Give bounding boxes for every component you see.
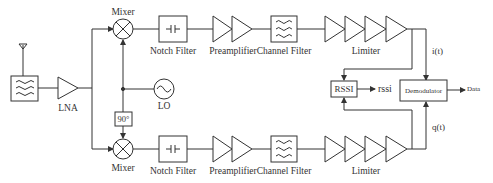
data-output-label: Data — [467, 86, 480, 93]
rssi-label: RSSI — [334, 85, 353, 94]
receiver-block-diagram: LNA Mixer Mixer LO 90° Notch Filter Notc… — [0, 0, 493, 183]
notch-filter-i-icon — [159, 16, 187, 42]
channel-filter-i-icon — [271, 16, 297, 42]
preamplifier-i-icon — [213, 16, 252, 42]
channel-filter-q-label: Channel Filter — [257, 167, 312, 177]
mixer-i-label: Mixer — [111, 8, 134, 18]
rf-filter-icon — [11, 76, 38, 101]
notch-filter-q-icon — [159, 136, 187, 162]
antenna-icon — [19, 44, 27, 76]
lna-amplifier-icon — [58, 77, 78, 99]
channel-filter-q-icon — [271, 136, 297, 162]
preamplifier-q-label: Preamplifier — [209, 167, 256, 177]
demodulator-label: Demodulator — [405, 87, 442, 94]
channel-filter-i-label: Channel Filter — [257, 47, 312, 57]
limiter-q-label: Limiter — [352, 167, 381, 177]
rssi-output-label: rssi — [378, 84, 392, 94]
lo-oscillator-icon — [154, 79, 174, 99]
preamplifier-q-icon — [213, 136, 252, 162]
limiter-i-label: Limiter — [352, 47, 381, 57]
notch-filter-i-label: Notch Filter — [150, 47, 196, 57]
limiter-q-icon — [325, 136, 407, 162]
mixer-i-icon — [113, 19, 133, 39]
limiter-i-icon — [325, 16, 407, 42]
i-signal-label: i(t) — [432, 47, 443, 56]
mixer-q-icon — [113, 139, 133, 159]
lna-label: LNA — [58, 104, 78, 114]
preamplifier-i-label: Preamplifier — [209, 47, 256, 57]
mixer-q-label: Mixer — [111, 164, 134, 174]
q-signal-label: q(t) — [432, 123, 445, 132]
lo-label: LO — [158, 102, 171, 112]
phase-shift-label: 90° — [118, 115, 130, 124]
notch-filter-q-label: Notch Filter — [150, 167, 196, 177]
